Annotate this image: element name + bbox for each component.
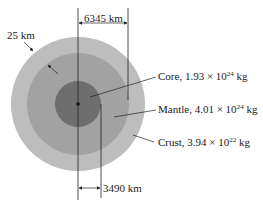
crust-thickness-arrow-outer	[24, 42, 33, 51]
crust-thickness-label: 25 km	[7, 30, 35, 41]
core-mass-label: Core, 1.93 × 1024 kg	[158, 71, 248, 82]
core-radius-label: 3490 km	[103, 183, 142, 194]
crust-mass-label: Crust, 3.94 × 1022 kg	[158, 137, 250, 148]
mantle-mass-label: Mantle, 4.01 × 1024 kg	[158, 104, 257, 115]
outer-radius-label: 6345 km	[84, 13, 123, 24]
crust-leader-line	[133, 135, 154, 142]
